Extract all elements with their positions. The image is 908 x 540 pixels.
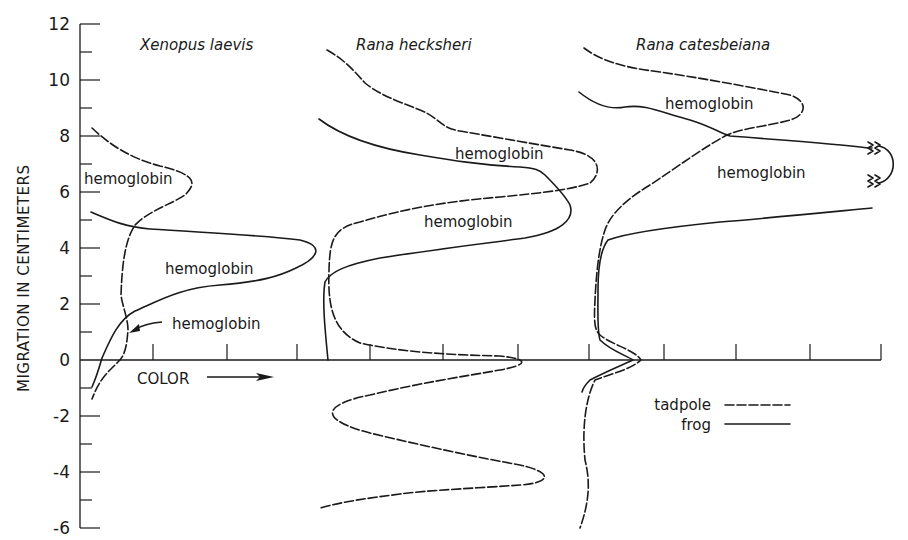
species-title-xenopus: Xenopus laevis bbox=[139, 36, 253, 54]
legend-label-frog: frog bbox=[681, 416, 711, 434]
y-tick-label: 6 bbox=[59, 182, 70, 202]
y-tick-label: 4 bbox=[59, 238, 70, 258]
hecksheri-curves: hemoglobin hemoglobin bbox=[319, 50, 597, 508]
y-tick-label: -4 bbox=[53, 462, 70, 482]
y-tick-label: 2 bbox=[59, 294, 70, 314]
species-title-catesbeiana: Rana catesbeiana bbox=[636, 36, 770, 54]
y-tick-label: 10 bbox=[48, 70, 70, 90]
y-tick-label: 12 bbox=[48, 14, 70, 34]
y-tick-label: 0 bbox=[59, 350, 70, 370]
hemoglobin-label: hemoglobin bbox=[165, 260, 254, 278]
xenopus-curves: hemoglobin hemoglobin hemoglobin bbox=[84, 128, 316, 399]
hemoglobin-label: hemoglobin bbox=[84, 170, 173, 188]
y-tick-label: -6 bbox=[53, 518, 70, 538]
hemoglobin-label: hemoglobin bbox=[717, 164, 806, 182]
legend-label-tadpole: tadpole bbox=[654, 396, 711, 414]
hemoglobin-label: hemoglobin bbox=[424, 213, 513, 231]
y-tick-label: 8 bbox=[59, 126, 70, 146]
catesbeiana-curves: hemoglobin hemoglobin bbox=[579, 48, 893, 528]
x-axis: COLOR bbox=[80, 344, 881, 388]
legend: tadpole frog bbox=[654, 396, 790, 434]
pointer-arrow-icon bbox=[129, 322, 162, 333]
y-tick-label: -2 bbox=[53, 406, 70, 426]
y-axis: 12 10 8 6 4 2 0 -2 -4 -6 MIGRATION IN CE… bbox=[15, 14, 100, 538]
electrophoresis-chart: 12 10 8 6 4 2 0 -2 -4 -6 MIGRATION IN CE… bbox=[0, 0, 908, 540]
hemoglobin-label: hemoglobin bbox=[455, 145, 544, 163]
species-title-hecksheri: Rana hecksheri bbox=[356, 36, 472, 54]
arrow-right-icon bbox=[207, 373, 274, 381]
y-axis-label: MIGRATION IN CENTIMETERS bbox=[15, 165, 33, 392]
hemoglobin-label: hemoglobin bbox=[665, 95, 754, 113]
x-axis-label: COLOR bbox=[137, 370, 189, 388]
hemoglobin-label: hemoglobin bbox=[172, 315, 261, 333]
